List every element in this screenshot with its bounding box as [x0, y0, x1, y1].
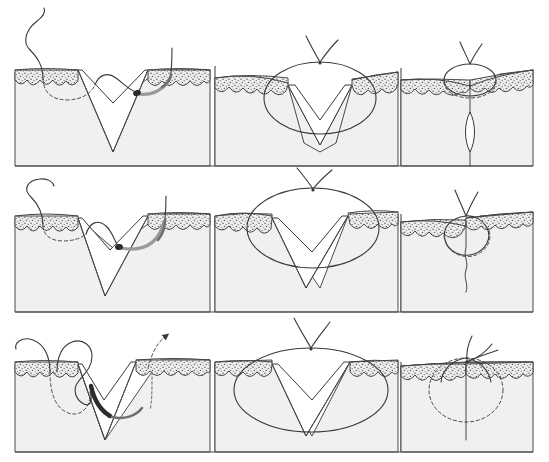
panel-r2c3[interactable] [401, 190, 533, 312]
epidermis-band-right [148, 214, 210, 230]
epidermis-band-left [401, 79, 470, 95]
panel-r2c1[interactable] [15, 179, 210, 312]
figure-canvas [0, 0, 549, 462]
row-2 [15, 168, 533, 312]
epidermis-band-left [15, 70, 78, 85]
knot-tail-left [455, 190, 466, 216]
knot-tail-left [294, 318, 311, 348]
knot-tail-right [470, 44, 482, 64]
knot-tail-right [311, 322, 330, 348]
suture-figure: Suture technique sequence Nine-panel cro… [0, 0, 549, 462]
panel-r2c2[interactable] [215, 168, 398, 312]
row-3 [15, 318, 533, 452]
panel-r3c3[interactable] [401, 336, 533, 452]
panel-r1c3[interactable] [401, 42, 533, 166]
epidermis-band-right [136, 360, 210, 376]
knot [309, 347, 312, 350]
knot-tail-left [306, 36, 320, 62]
epidermis-band-right [148, 70, 210, 86]
panel-r3c2[interactable] [215, 318, 398, 452]
epidermis-band-left [15, 216, 78, 231]
panel-r1c2[interactable] [215, 36, 398, 166]
panel-r3c1[interactable] [15, 336, 210, 452]
epidermis-band-left [15, 362, 78, 377]
knot [318, 61, 321, 64]
row-1 [15, 8, 533, 166]
panel-r1c1[interactable] [15, 8, 210, 166]
knot-tail-right [320, 40, 338, 62]
knot-tail-right [466, 192, 478, 216]
epidermis-band-right [350, 360, 398, 377]
knot-tail-left [460, 42, 470, 64]
knot-tail-left [297, 168, 313, 189]
knot [311, 188, 314, 191]
epidermis-band-right [348, 212, 398, 229]
suture-thread-crossing [95, 75, 136, 92]
knot-tail-right [313, 170, 332, 189]
epidermis-band-left [401, 219, 466, 237]
